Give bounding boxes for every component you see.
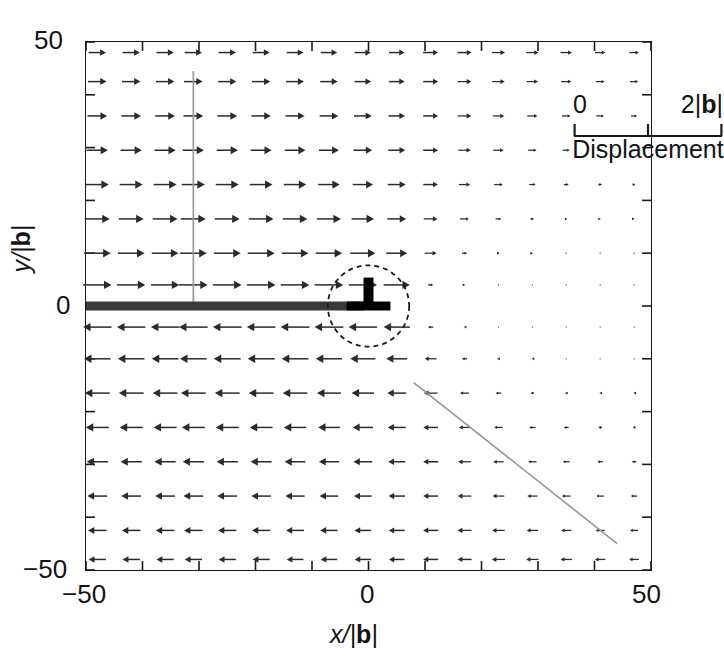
legend-max-vector: b xyxy=(701,90,716,118)
annotation-layer xyxy=(86,42,651,570)
y-axis-tick-label-0: 0 xyxy=(56,292,70,318)
y-axis-title-sep: /| xyxy=(7,247,35,260)
y-axis-title: y/|b| xyxy=(7,243,36,273)
x-axis-tick-label-minus50: −50 xyxy=(62,581,106,607)
legend-max-bar-close: | xyxy=(717,90,724,118)
x-axis-title-vector: b xyxy=(356,620,371,648)
x-axis-title-var: x xyxy=(330,620,343,648)
x-axis-title-sep: /| xyxy=(343,620,356,648)
legend-max-number: 2 xyxy=(681,90,695,118)
x-axis-title: x/|b| xyxy=(330,620,378,649)
x-axis-title-close: | xyxy=(371,620,378,648)
legend-caption: Displacement xyxy=(572,135,724,164)
y-axis-tick-label-50: 50 xyxy=(34,27,63,53)
y-axis-title-close: | xyxy=(7,225,35,232)
legend-min-label: 0 xyxy=(573,90,587,119)
y-axis-title-vector: b xyxy=(7,231,35,246)
plot-area: 0 2|b| Displacement xyxy=(85,41,652,571)
x-axis-tick-label-50: 50 xyxy=(632,581,661,607)
y-axis-tick-label-minus50: −50 xyxy=(23,556,67,582)
legend-max-label: 2|b| xyxy=(681,90,723,119)
displacement-legend: 0 2|b| Displacement xyxy=(573,90,723,166)
x-axis-tick-label-0: 0 xyxy=(360,581,374,607)
y-axis-title-var: y xyxy=(7,260,35,273)
